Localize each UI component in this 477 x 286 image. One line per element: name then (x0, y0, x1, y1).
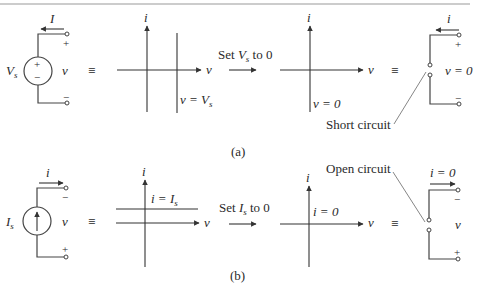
i-axis-label: i (144, 10, 148, 25)
voltage-label: v (62, 63, 68, 78)
current-source-circuit: i Is − + v (5, 165, 68, 259)
source-name: Vs (6, 63, 18, 80)
vi-graph-source-b: i v i = Is (116, 164, 210, 267)
vi-graph-zeroed-b: i v i = 0 (280, 170, 374, 267)
annotation-leader (393, 172, 425, 222)
vi-graph-zeroed-a: i v v = 0 (280, 10, 374, 112)
source-minus: − (34, 71, 40, 83)
v-axis-label: v (206, 62, 212, 77)
terminal-top (65, 32, 69, 36)
line-label: v = 0 (313, 96, 341, 111)
terminal-minus-label: − (62, 191, 68, 203)
caption-a: (a) (231, 144, 245, 159)
voltage-label: v = 0 (445, 63, 473, 78)
voltage-label: v (455, 217, 461, 232)
open-circuit: i = 0 − + v Open circuit (326, 161, 461, 261)
equivalence-symbol: ≡ (88, 63, 95, 78)
open-circuit-annotation: Open circuit (326, 161, 391, 176)
i-axis-label: i (142, 164, 146, 179)
source-name: Is (5, 214, 14, 231)
equivalence-symbol: ≡ (88, 214, 95, 229)
circuit-figure: I + − Vs + − v ≡ i v v = Vs Set Vs to 0 … (0, 0, 477, 286)
equivalence-symbol: ≡ (391, 63, 398, 78)
caption-b: (b) (230, 268, 245, 283)
vi-graph-source-a: i v v = Vs (117, 10, 213, 113)
transform-step-b: Set Is to 0 (219, 200, 270, 224)
transform-step-a: Set Vs to 0 (218, 47, 272, 70)
line-label: i = Is (151, 191, 178, 208)
transform-label: Set Is to 0 (219, 200, 270, 217)
terminal-plus-label: + (455, 38, 461, 50)
terminal-plus-label: + (454, 246, 460, 258)
annotation-leader (394, 72, 426, 124)
terminal-minus-label: − (454, 193, 460, 205)
voltage-label: v (62, 214, 68, 229)
terminal-minus-label: − (63, 91, 69, 103)
voltage-source-circuit: I + − Vs + − v (6, 11, 69, 105)
short-circuit-annotation: Short circuit (326, 117, 391, 132)
v-axis-label: v (368, 215, 374, 230)
source-plus: + (34, 58, 40, 70)
line-label: v = Vs (180, 92, 213, 109)
current-label: i = 0 (430, 165, 456, 180)
terminal-minus-label: − (455, 92, 461, 104)
transform-label: Set Vs to 0 (218, 47, 272, 64)
equivalence-symbol: ≡ (391, 216, 398, 231)
v-axis-label: v (368, 62, 374, 77)
current-label: i (46, 165, 50, 180)
i-axis-label: i (306, 170, 310, 185)
terminal-plus-label: + (63, 37, 69, 49)
i-axis-label: i (307, 10, 311, 25)
current-label: I (49, 11, 55, 26)
current-label: i (447, 11, 451, 26)
short-circuit: i + − v = 0 Short circuit (326, 11, 473, 132)
line-label: i = 0 (313, 204, 339, 219)
terminal-plus-label: + (62, 243, 68, 255)
v-axis-label: v (204, 215, 210, 230)
